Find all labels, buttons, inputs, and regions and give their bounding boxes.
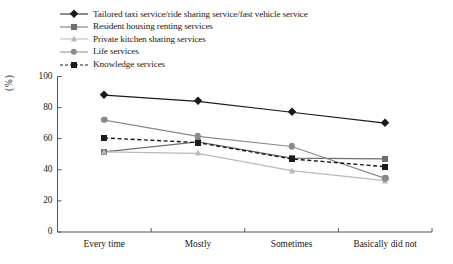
y-tick-label: 20 xyxy=(27,196,53,205)
y-tick-label: 40 xyxy=(27,165,53,174)
y-tick-label: 60 xyxy=(27,134,53,143)
plot-area: 020406080100 Every timeMostlySometimesBa… xyxy=(0,0,453,264)
chart-container: Tailored taxi service/ride sharing servi… xyxy=(0,0,453,264)
x-tick-label: Basically did not xyxy=(325,240,445,249)
plot-canvas xyxy=(0,0,453,264)
y-axis-title: (%) xyxy=(4,74,14,91)
y-tick-label: 0 xyxy=(27,227,53,236)
y-tick-label: 80 xyxy=(27,103,53,112)
y-tick-label: 100 xyxy=(27,72,53,81)
